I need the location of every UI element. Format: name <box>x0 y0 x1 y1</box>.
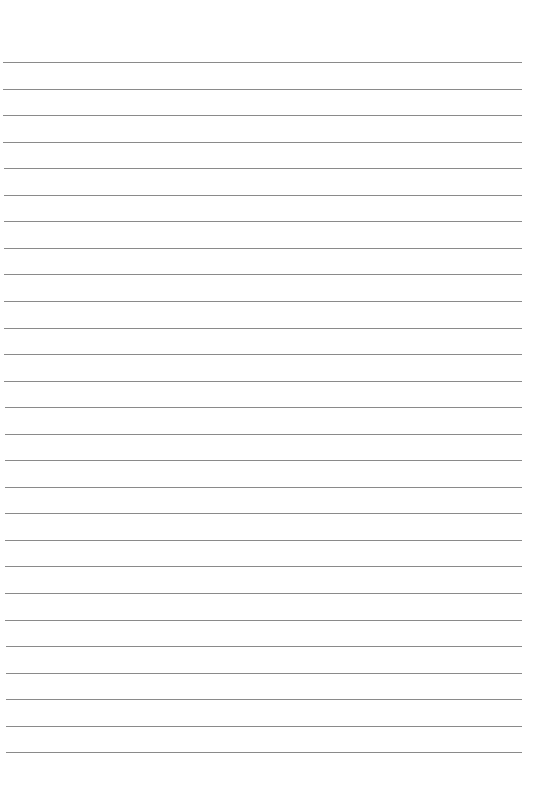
ruled-line <box>5 593 522 594</box>
ruled-line <box>4 248 522 249</box>
ruled-line <box>5 566 522 567</box>
ruled-line <box>6 752 522 753</box>
ruled-line <box>4 168 523 169</box>
ruled-line <box>5 620 522 621</box>
ruled-line <box>5 487 522 488</box>
ruled-line <box>4 274 522 275</box>
ruled-line <box>4 221 522 222</box>
ruled-line <box>3 89 522 90</box>
ruled-line <box>6 699 522 700</box>
ruled-paper-sheet <box>0 0 539 794</box>
ruled-line <box>4 195 522 196</box>
ruled-line <box>6 673 522 674</box>
ruled-line <box>5 407 523 408</box>
ruled-line <box>4 301 522 302</box>
ruled-line <box>3 142 522 143</box>
ruled-line <box>6 726 522 727</box>
ruled-line <box>5 513 522 514</box>
ruled-line <box>5 460 522 461</box>
ruled-line <box>5 434 522 435</box>
ruled-line <box>6 646 523 647</box>
ruled-line <box>3 115 522 116</box>
ruled-line <box>4 328 522 329</box>
ruled-line <box>4 381 522 382</box>
ruled-line <box>4 354 522 355</box>
ruled-line <box>5 540 522 541</box>
ruled-line <box>3 62 522 63</box>
